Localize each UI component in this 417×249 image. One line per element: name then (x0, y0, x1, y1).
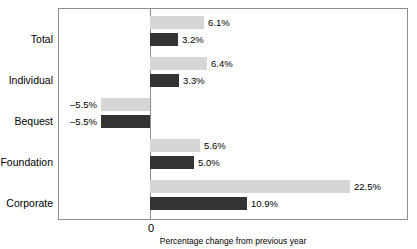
bar-label-foundation-light: 5.6% (204, 139, 226, 152)
bar-label-foundation-dark: 5.0% (198, 156, 220, 169)
bar-label-total-dark: 3.2% (182, 33, 204, 46)
bar-foundation-light (150, 139, 200, 152)
bar-corporate-light (150, 180, 350, 193)
bar-bequest-light (101, 98, 150, 111)
bar-label-bequest-dark: –5.5% (51, 115, 97, 128)
bars-layer: 6.1% 3.2% 6.4% 3.3% –5.5% –5.5% 5.6% 5.0… (0, 0, 417, 249)
bar-individual-light (150, 57, 207, 70)
bar-corporate-dark (150, 197, 247, 210)
bar-label-corporate-dark: 10.9% (251, 197, 278, 210)
bar-total-light (150, 16, 204, 29)
bar-label-corporate-light: 22.5% (354, 180, 381, 193)
bar-chart: Total Individual Bequest Foundation Corp… (0, 0, 417, 249)
bar-label-total-light: 6.1% (208, 16, 230, 29)
bar-total-dark (150, 33, 178, 46)
bar-bequest-dark (101, 115, 150, 128)
x-axis-zero-tick-label: 0 (143, 222, 159, 235)
bar-label-individual-light: 6.4% (211, 57, 233, 70)
bar-individual-dark (150, 74, 179, 87)
bar-label-bequest-light: –5.5% (51, 98, 97, 111)
x-axis-title: Percentage change from previous year (58, 236, 408, 246)
bar-foundation-dark (150, 156, 194, 169)
bar-label-individual-dark: 3.3% (183, 74, 205, 87)
